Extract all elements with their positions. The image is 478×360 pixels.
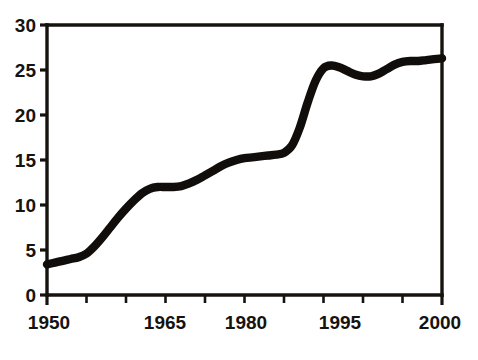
x-tick-label-1965: 1965 [144,312,187,333]
x-tick-label-1995: 1995 [319,312,362,333]
x-tick-label-1950: 1950 [28,312,70,333]
y-axis-tick-labels: 30 25 20 15 10 5 0 [15,15,37,306]
y-tick-label-25: 25 [15,60,37,81]
x-tick-label-2000: 2000 [419,312,461,333]
x-tick-label-1980: 1980 [225,312,267,333]
line-chart: 30 25 20 15 10 5 0 1950 1965 1980 1995 [0,0,478,360]
y-tick-label-0: 0 [25,285,36,306]
x-axis-tick-labels: 1950 1965 1980 1995 2000 [28,312,461,333]
y-tick-label-20: 20 [15,105,36,126]
y-tick-label-10: 10 [15,195,36,216]
chart-container: 30 25 20 15 10 5 0 1950 1965 1980 1995 [0,0,478,360]
y-tick-label-15: 15 [15,150,37,171]
y-tick-label-5: 5 [25,240,36,261]
y-tick-label-30: 30 [15,15,36,36]
